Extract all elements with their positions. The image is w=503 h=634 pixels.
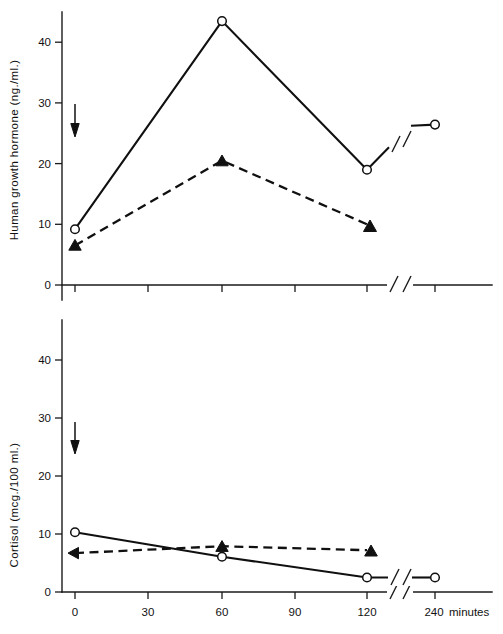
bottom-series-line-break xyxy=(388,569,412,586)
figure-container: 0 10 20 30 40 xyxy=(0,0,503,634)
bottom-series-solid-line-a xyxy=(75,532,389,577)
top-injection-down-arrow-icon xyxy=(71,104,79,137)
bottom-x-ticks xyxy=(75,592,435,599)
top-ytick-label-10: 10 xyxy=(38,218,51,230)
bottom-xtick-label-240: 240 xyxy=(424,606,443,618)
top-y-axis-title: Human growth hormone (ng./ml.) xyxy=(8,60,20,241)
top-series-solid-markers xyxy=(71,17,440,234)
top-ytick-label-20: 20 xyxy=(38,158,51,170)
bottom-x-axis-unit-label: minutes xyxy=(449,606,490,618)
bottom-xtick-label-30: 30 xyxy=(142,606,155,618)
top-series-dashed-markers xyxy=(69,155,377,250)
two-panel-line-chart: 0 10 20 30 40 xyxy=(0,0,503,634)
bottom-ytick-label-0: 0 xyxy=(45,586,51,598)
top-y-ticks xyxy=(55,42,62,285)
bottom-ytick-label-40: 40 xyxy=(38,354,51,366)
panel-bottom: 0 10 20 30 40 0 30 60 xyxy=(8,320,492,618)
bottom-y-ticks xyxy=(55,360,62,592)
top-series-dashed-line xyxy=(75,161,367,246)
bottom-injection-down-arrow-icon xyxy=(71,422,79,454)
top-x-axis-break xyxy=(387,276,413,292)
bottom-y-axis-title: Cortisol (mcg./100 ml.) xyxy=(8,443,20,568)
top-ytick-label-30: 30 xyxy=(38,97,51,109)
bottom-ytick-label-10: 10 xyxy=(38,528,51,540)
top-series-solid-line-a xyxy=(75,21,389,229)
top-ytick-label-40: 40 xyxy=(38,36,51,48)
bottom-series-solid-markers xyxy=(71,528,440,582)
bottom-xtick-label-60: 60 xyxy=(216,606,229,618)
top-ytick-label-0: 0 xyxy=(45,279,51,291)
top-x-ticks xyxy=(75,285,435,292)
bottom-ytick-label-20: 20 xyxy=(38,470,51,482)
bottom-xtick-label-0: 0 xyxy=(72,606,78,618)
bottom-ytick-label-30: 30 xyxy=(38,412,51,424)
bottom-xtick-label-120: 120 xyxy=(357,606,376,618)
panel-top: 0 10 20 30 40 xyxy=(8,12,492,300)
bottom-xtick-label-90: 90 xyxy=(289,606,302,618)
